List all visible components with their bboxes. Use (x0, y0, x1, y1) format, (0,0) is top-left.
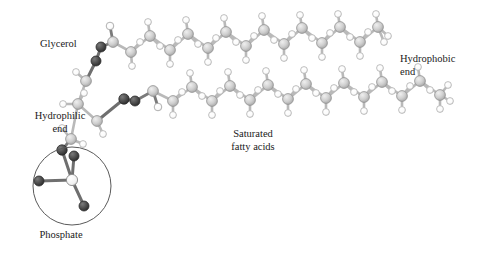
hydrogen-atoms (59, 11, 454, 148)
phosphorus-atom (66, 174, 77, 185)
label-phosphate: Phosphate (26, 229, 96, 242)
figure-canvas: Glycerol Hydrophilic end Phosphate Satur… (0, 0, 484, 256)
label-saturated-fatty-acids: Saturated fatty acids (214, 128, 292, 153)
label-hydrophilic-end: Hydrophilic end (29, 110, 91, 135)
label-glycerol: Glycerol (40, 38, 102, 51)
label-hydrophobic-end: Hydrophobic end (400, 53, 472, 78)
carbon-atoms (66, 22, 446, 145)
